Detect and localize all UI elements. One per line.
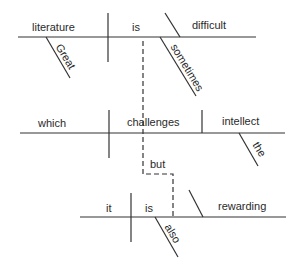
word-intellect: intellect [222,116,259,127]
word-is-2: is [145,203,153,214]
diagram-lines [0,0,302,269]
word-challenges: challenges [127,117,180,128]
word-but: but [150,159,165,170]
word-literature: literature [32,22,75,33]
word-difficult: difficult [192,20,226,31]
complement-divider-3 [189,190,203,217]
complement-divider-1 [165,13,180,37]
conjunction-connector [143,41,173,217]
word-it: it [106,203,112,214]
word-which: which [38,118,66,129]
word-rewarding: rewarding [218,201,266,212]
word-is-1: is [132,22,140,33]
